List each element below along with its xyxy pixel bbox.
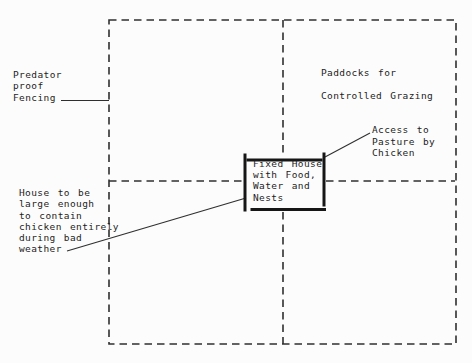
- predator-fencing-label-line: proof: [13, 80, 62, 91]
- access-to-pasture-label: Access to Pasture by Chicken: [372, 124, 435, 159]
- fixed-house-box-label: Fixed House with Food, Water and Nests: [253, 158, 322, 203]
- house-size-note-line: during bad: [19, 232, 119, 243]
- fixed-house-box-line: with Food,: [253, 169, 322, 180]
- house-size-note-line: large enough: [19, 198, 119, 209]
- predator-fencing-label-line: Predator: [13, 69, 62, 80]
- predator-fencing-label-line: Fencing: [13, 92, 62, 103]
- access-to-pasture-label-line: Chicken: [372, 147, 435, 159]
- house-size-note-line: chicken entirely: [19, 221, 119, 232]
- paddocks-label-line: Paddocks for: [321, 61, 433, 84]
- house-size-note-label: House to be large enough to contain chic…: [19, 187, 119, 255]
- access-to-pasture-label-line: Pasture by: [372, 136, 435, 148]
- fixed-house-box-line: Water and: [253, 180, 322, 191]
- diagram-line-art: [0, 0, 472, 363]
- paddocks-label: Paddocks for Controlled Grazing: [321, 61, 433, 107]
- access-leader-line: [325, 133, 370, 157]
- house-size-note-line: House to be: [19, 187, 119, 198]
- diagram-canvas: Predator proof Fencing Paddocks for Cont…: [0, 0, 472, 363]
- predator-fencing-label: Predator proof Fencing: [13, 69, 62, 103]
- fixed-house-box-line: Fixed House: [253, 158, 322, 169]
- paddocks-label-line: Controlled Grazing: [321, 84, 433, 107]
- house-size-note-line: weather: [19, 243, 119, 254]
- fixed-house-box-line: Nests: [253, 192, 322, 203]
- house-size-note-line: to contain: [19, 210, 119, 221]
- access-to-pasture-label-line: Access to: [372, 124, 435, 136]
